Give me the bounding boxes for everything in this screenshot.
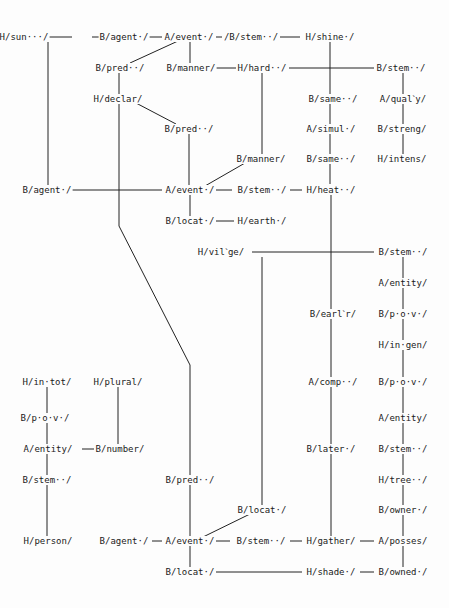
diagram-node: B/locat·/ xyxy=(165,216,216,226)
diagram-node: A/event·/ xyxy=(165,536,216,546)
diagram-node: A/entity/ xyxy=(378,278,429,288)
diagram-node: B/stem··/ xyxy=(378,247,429,257)
diagram-node: H/in·gen/ xyxy=(378,340,429,350)
diagram-node: B/later·/ xyxy=(306,444,357,454)
diagram-node: H/shade·/ xyxy=(306,567,357,577)
diagram-node: B/earlˋr/ xyxy=(309,309,357,319)
diagram-node: H/declar/ xyxy=(93,94,144,104)
diagram-node: A/event·/ xyxy=(164,32,215,42)
diagram-node: H/hard··/ xyxy=(237,63,288,73)
edge-line xyxy=(205,163,245,186)
diagram-node: B/pred··/ xyxy=(95,63,146,73)
diagram-node: B/same··/ xyxy=(308,94,359,104)
diagram-node: B/stem··/ xyxy=(378,444,429,454)
diagram-node: A/event·/ xyxy=(165,185,216,195)
semantic-network-diagram: H/sun···/B/agent·/A/event·//B/stem··/H/s… xyxy=(0,0,449,608)
diagram-node: B/number/ xyxy=(95,444,146,454)
diagram-node: H/shine·/ xyxy=(305,32,356,42)
diagram-node: H/tree··/ xyxy=(378,475,429,485)
diagram-node: B/manner/ xyxy=(166,63,217,73)
diagram-node: B/locat·/ xyxy=(237,505,288,515)
diagram-node: H/plural/ xyxy=(93,377,144,387)
diagram-node: B/locat·/ xyxy=(165,567,216,577)
diagram-node: A/qualˋy/ xyxy=(379,94,427,104)
diagram-node: B/manner/ xyxy=(236,154,287,164)
diagram-node: B/pred··/ xyxy=(165,475,216,485)
diagram-node: H/gather/ xyxy=(306,536,357,546)
diagram-node: H/earth·/ xyxy=(237,216,288,226)
diagram-node: A/comp··/ xyxy=(308,377,359,387)
diagram-node: B/streng/ xyxy=(377,124,428,134)
diagram-node: H/in·tot/ xyxy=(22,377,73,387)
diagram-node: B/p·o·v·/ xyxy=(378,377,429,387)
diagram-node: A/entity/ xyxy=(23,444,74,454)
diagram-node: A/simul·/ xyxy=(306,124,357,134)
edge-line xyxy=(136,103,176,124)
diagram-node: B/pred··/ xyxy=(164,124,215,134)
edge-line xyxy=(203,514,250,537)
diagram-node: B/stem··/ xyxy=(22,475,73,485)
diagram-node: B/stem··/ xyxy=(237,185,288,195)
diagram-edges xyxy=(0,0,449,608)
diagram-node: B/stem··/ xyxy=(236,536,287,546)
diagram-node: H/vilˋge/ xyxy=(197,247,245,257)
edge-polyline xyxy=(119,104,190,475)
diagram-node: B/agent·/ xyxy=(99,536,150,546)
diagram-node: B/p·o·v·/ xyxy=(20,413,71,423)
diagram-node: H/person/ xyxy=(23,536,74,546)
edge-line xyxy=(130,41,178,63)
diagram-node: B/stem··/ xyxy=(376,63,427,73)
diagram-node: B/agent·/ xyxy=(22,185,73,195)
diagram-node: /B/stem··/ xyxy=(223,32,279,42)
diagram-node: B/owned·/ xyxy=(378,567,429,577)
diagram-node: B/owner·/ xyxy=(378,505,429,515)
diagram-node: H/heat··/ xyxy=(306,185,357,195)
diagram-node: H/intens/ xyxy=(377,154,428,164)
diagram-node: B/same··/ xyxy=(306,154,357,164)
diagram-node: A/posses/ xyxy=(378,536,429,546)
diagram-node: B/agent·/ xyxy=(99,32,150,42)
diagram-node: H/sun···/ xyxy=(0,32,49,42)
diagram-node: A/entity/ xyxy=(378,413,429,423)
diagram-node: B/p·o·v·/ xyxy=(378,309,429,319)
